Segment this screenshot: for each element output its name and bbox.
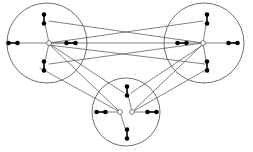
- left-node-right: [64, 41, 78, 46]
- right-node-bottom: [205, 59, 210, 73]
- right-node-left-dot-a: [184, 41, 189, 46]
- bottom-hub-right: [130, 110, 135, 115]
- left-node-left-dot-b: [6, 41, 11, 46]
- bottom-hub-left: [118, 110, 123, 115]
- left-node-bottom-dot-a: [42, 59, 47, 64]
- left-node-bottom-dot-b: [42, 68, 47, 73]
- left-hub: [47, 41, 52, 46]
- right-node-top: [205, 12, 210, 26]
- right-node-top-dot-a: [205, 21, 210, 26]
- bottom-node-left-dot-b: [94, 110, 99, 115]
- right-node-right-dot-a: [226, 41, 231, 46]
- right-node-bottom-dot-a: [205, 59, 210, 64]
- left-node-right-dot-b: [73, 41, 78, 46]
- right-node-bottom-dot-b: [205, 68, 210, 73]
- bottom-node-right: [145, 110, 159, 115]
- right-node-top-dot-b: [205, 12, 210, 17]
- right-node-right-dot-b: [235, 41, 240, 46]
- graph-diagram: [0, 0, 253, 152]
- left-node-bottom: [42, 59, 47, 73]
- spoke-right-bottom: [203, 45, 205, 59]
- bottom-node-top: [125, 84, 130, 98]
- spoke-right-top: [203, 26, 205, 41]
- left-node-top: [42, 12, 47, 26]
- bottom-node-bottom-dot-a: [125, 127, 130, 132]
- spoke-bottom-top: [129, 98, 132, 110]
- bottom-node-top-dot-b: [125, 84, 130, 89]
- edge-lh-bhl: [51, 46, 118, 110]
- bottom-node-top-dot-a: [125, 93, 130, 98]
- left-node-left: [6, 41, 20, 46]
- edge-lh-bnt: [51, 45, 124, 93]
- right-hub: [201, 41, 206, 46]
- edge-bnt-rh: [131, 45, 203, 93]
- spoke-left-bottom: [45, 45, 48, 59]
- right-node-left: [175, 41, 189, 46]
- spoke-bottom-bot: [121, 114, 125, 127]
- spoke-left-top: [45, 26, 48, 41]
- edge-bh-rnb: [132, 68, 209, 112]
- diagram-canvas: [0, 0, 253, 152]
- left-node-left-dot-a: [15, 41, 20, 46]
- hub-group: [47, 41, 206, 115]
- left-node-top-dot-a: [42, 21, 47, 26]
- right-node-right: [226, 41, 240, 46]
- bottom-node-left-dot-a: [103, 110, 108, 115]
- left-node-right-dot-a: [64, 41, 69, 46]
- bottom-node-right-dot-a: [145, 110, 150, 115]
- bottom-node-bottom-dot-b: [125, 136, 130, 141]
- bottom-node-right-dot-b: [154, 110, 159, 115]
- bottom-node-left: [94, 110, 108, 115]
- bottom-node-bottom: [125, 127, 130, 141]
- edge-lnb-bh: [40, 68, 120, 112]
- cross-edge-group: [40, 21, 209, 112]
- right-node-left-dot-b: [175, 41, 180, 46]
- left-node-top-dot-b: [42, 12, 47, 17]
